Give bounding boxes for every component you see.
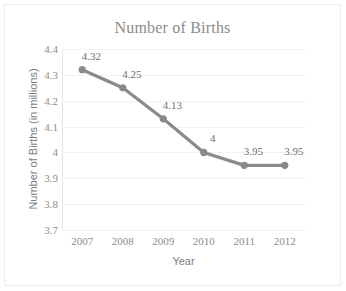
data-point-marker	[160, 115, 167, 122]
y-axis-tick-label: 3.7	[28, 224, 58, 236]
chart-title: Number of Births	[5, 19, 340, 37]
gridline	[62, 230, 305, 231]
data-point-label: 3.95	[284, 145, 303, 157]
data-point-marker	[281, 162, 288, 169]
data-point-marker	[241, 162, 248, 169]
y-axis-tick-label: 3.9	[28, 172, 58, 184]
x-axis-tick-labels: 200720082009201020112012	[62, 235, 305, 251]
data-point-marker	[79, 66, 86, 73]
y-axis-tick-label: 4.4	[28, 43, 58, 55]
plot-area	[62, 49, 305, 230]
data-point-label: 4	[210, 132, 216, 144]
data-point-label: 4.32	[82, 50, 101, 62]
data-point-label: 4.13	[163, 99, 182, 111]
x-axis-title: Year	[62, 255, 305, 267]
data-point-marker	[119, 84, 126, 91]
x-axis-tick-label: 2012	[262, 235, 308, 247]
y-axis-tick-label: 4.3	[28, 69, 58, 81]
x-axis-tick-label: 2007	[59, 235, 105, 247]
births-line-series	[62, 49, 305, 230]
x-axis-tick-label: 2010	[181, 235, 227, 247]
y-axis-tick-label: 4	[28, 146, 58, 158]
y-axis-tick-labels: 4.44.34.24.143.93.83.7	[24, 49, 58, 230]
data-point-label: 4.25	[122, 68, 141, 80]
x-axis-tick-label: 2008	[100, 235, 146, 247]
x-axis-tick-label: 2009	[140, 235, 186, 247]
data-point-marker	[200, 149, 207, 156]
y-axis-tick-label: 3.8	[28, 198, 58, 210]
y-axis-tick-label: 4.1	[28, 121, 58, 133]
data-point-label: 3.95	[244, 145, 263, 157]
chart-container: Number of Births Number of Births (in mi…	[4, 4, 341, 286]
y-axis-tick-label: 4.2	[28, 95, 58, 107]
x-axis-tick-label: 2011	[221, 235, 267, 247]
